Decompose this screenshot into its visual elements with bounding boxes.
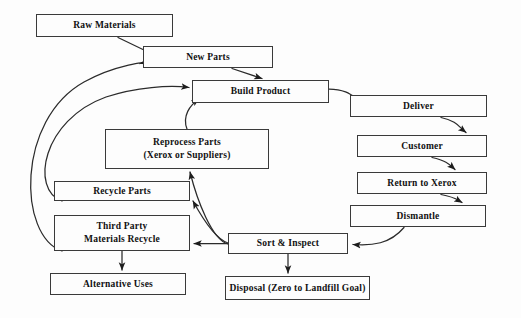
node-label: Return to Xerox (387, 177, 456, 190)
node-label: Raw Materials (73, 19, 136, 32)
edge-dismantle-to-sort-and-inspect (353, 228, 404, 245)
node-dismantle[interactable]: Dismantle (350, 205, 486, 227)
flowchart-diagram: Raw Materials New Parts Build Product De… (0, 0, 521, 318)
node-return-to-xerox[interactable]: Return to Xerox (357, 172, 487, 194)
node-label-line-2: Materials Recycle (84, 233, 160, 246)
node-label: Customer (401, 140, 443, 153)
node-customer[interactable]: Customer (357, 135, 487, 157)
edge-sort-and-inspect-to-recycle-parts (193, 201, 228, 243)
edge-reprocess-parts-to-build-product (185, 99, 199, 129)
node-label: Build Product (231, 85, 291, 98)
node-label: Alternative Uses (83, 278, 153, 291)
node-build-product[interactable]: Build Product (192, 80, 329, 103)
node-label: Sort & Inspect (257, 237, 319, 250)
node-label-line-1: Reprocess Parts (143, 136, 230, 149)
node-deliver[interactable]: Deliver (350, 95, 487, 117)
node-label: Disposal (Zero to Landfill Goal) (229, 282, 365, 295)
node-recycle-parts[interactable]: Recycle Parts (54, 181, 190, 201)
node-raw-materials[interactable]: Raw Materials (36, 14, 173, 37)
node-label-line-2: (Xerox or Suppliers) (143, 149, 230, 162)
edge-new-parts-to-build-product (232, 69, 262, 79)
edge-return-to-xerox-to-dismantle (441, 195, 462, 203)
node-alternative-uses[interactable]: Alternative Uses (50, 273, 186, 295)
node-third-party-materials-recycle[interactable]: Third Party Materials Recycle (54, 215, 190, 251)
node-label-line-1: Third Party (84, 220, 160, 233)
node-sort-and-inspect[interactable]: Sort & Inspect (228, 233, 348, 254)
edge-sort-and-inspect-to-reprocess-parts (190, 172, 228, 244)
node-label: New Parts (186, 51, 230, 64)
node-reprocess-parts[interactable]: Reprocess Parts (Xerox or Suppliers) (105, 129, 269, 169)
node-label: Dismantle (397, 210, 440, 223)
node-label: Deliver (403, 100, 434, 113)
edge-customer-to-return-to-xerox (432, 158, 455, 170)
edge-deliver-to-customer (441, 118, 466, 133)
node-new-parts[interactable]: New Parts (143, 46, 273, 68)
node-disposal[interactable]: Disposal (Zero to Landfill Goal) (225, 276, 370, 300)
node-label: Recycle Parts (93, 185, 151, 198)
